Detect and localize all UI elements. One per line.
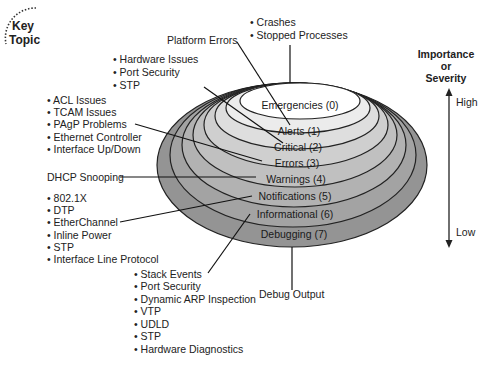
key-topic-line2: Topic: [9, 33, 40, 47]
callout-informational-item: Dynamic ARP Inspection: [141, 293, 257, 305]
svg-text:• TCAM Issues: • TCAM Issues: [47, 106, 116, 118]
callout-critical-item: STP: [120, 79, 140, 91]
svg-text:• STP: • STP: [113, 79, 140, 91]
callout-informational-item: Hardware Diagnostics: [141, 343, 244, 355]
callout-errors-item: ACL Issues: [53, 94, 106, 106]
callout-errors-item: TCAM Issues: [53, 106, 116, 118]
callout-critical: • Hardware Issues • Port Security • STP: [113, 53, 198, 91]
callout-errors-item: Ethernet Controller: [54, 131, 143, 143]
callout-errors-item: Interface Up/Down: [54, 143, 141, 155]
key-topic-line1: Key: [12, 19, 34, 33]
svg-text:• DTP: • DTP: [47, 204, 75, 216]
syslog-severity-diagram: Key Topic Emergencies (0) Alerts (1) Cri…: [0, 0, 485, 365]
level-0-label: Emergencies (0): [261, 99, 338, 111]
level-4-label: Warnings (4): [266, 173, 326, 185]
svg-text:• Interface Line Protocol: • Interface Line Protocol: [47, 253, 159, 265]
callout-informational-item: STP: [141, 330, 161, 342]
callout-critical-item: Port Security: [120, 66, 181, 78]
svg-text:• Stack Events: • Stack Events: [134, 268, 202, 280]
callout-emergencies-item: Stopped Processes: [257, 29, 348, 41]
callout-informational-item: Stack Events: [141, 268, 202, 280]
key-topic-badge: Key Topic: [5, 8, 40, 47]
callout-notifications-item: EtherChannel: [54, 216, 118, 228]
severity-axis: Importance or Severity High Low: [418, 48, 478, 248]
level-2-label: Critical (2): [274, 141, 322, 153]
callout-informational-item: VTP: [141, 305, 161, 317]
svg-text:• Dynamic ARP Inspection: • Dynamic ARP Inspection: [134, 293, 256, 305]
level-7-label: Debugging (7): [261, 228, 328, 240]
axis-title-line1: Importance: [418, 48, 475, 60]
callout-warnings: DHCP Snooping: [47, 171, 124, 183]
svg-text:• PAgP Problems: • PAgP Problems: [47, 118, 127, 130]
callout-notifications-item: DTP: [54, 204, 75, 216]
svg-text:• Ethernet Controller: • Ethernet Controller: [47, 131, 142, 143]
svg-text:• Inline Power: • Inline Power: [47, 229, 112, 241]
callout-alerts: Platform Errors: [167, 34, 238, 46]
svg-text:• VTP: • VTP: [134, 305, 161, 317]
svg-text:• UDLD: • UDLD: [134, 318, 170, 330]
axis-high-label: High: [456, 96, 478, 108]
arrow-up-icon: [446, 88, 453, 96]
svg-text:• Port Security: • Port Security: [113, 66, 180, 78]
callout-informational-item: Port Security: [141, 280, 202, 292]
callout-errors-item: PAgP Problems: [54, 118, 127, 130]
level-6-label: Informational (6): [257, 208, 333, 220]
svg-text:• STP: • STP: [134, 330, 161, 342]
callout-notifications-item: STP: [54, 241, 74, 253]
svg-text:• EtherChannel: • EtherChannel: [47, 216, 118, 228]
callout-notifications-item: 802.1X: [54, 192, 87, 204]
level-1-label: Alerts (1): [278, 125, 321, 137]
bullet: •: [250, 16, 257, 28]
callout-errors: • ACL Issues • TCAM Issues • PAgP Proble…: [47, 94, 142, 155]
callout-informational: • Stack Events • Port Security • Dynamic…: [134, 268, 256, 355]
callout-critical-item: Hardware Issues: [120, 53, 199, 65]
svg-text:• Stopped Processes: • Stopped Processes: [250, 29, 348, 41]
callout-debugging: Debug Output: [259, 288, 324, 300]
level-5-label: Notifications (5): [259, 190, 332, 202]
level-3-label: Errors (3): [275, 157, 319, 169]
callout-notifications-item: Inline Power: [54, 229, 112, 241]
callout-emergencies: • Crashes • Stopped Processes: [250, 16, 348, 41]
axis-title-line2: or: [441, 60, 452, 72]
axis-low-label: Low: [456, 226, 476, 238]
svg-text:• Hardware Diagnostics: • Hardware Diagnostics: [134, 343, 243, 355]
callout-notifications-item: Interface Line Protocol: [54, 253, 159, 265]
svg-text:• Interface Up/Down: • Interface Up/Down: [47, 143, 141, 155]
svg-text:• 802.1X: • 802.1X: [47, 192, 87, 204]
arrow-down-icon: [446, 240, 453, 248]
callout-emergencies-item: Crashes: [257, 16, 296, 28]
svg-text:• ACL Issues: • ACL Issues: [47, 94, 106, 106]
svg-text:• Hardware Issues: • Hardware Issues: [113, 53, 198, 65]
svg-text:• Port Security: • Port Security: [134, 280, 201, 292]
callout-informational-item: UDLD: [141, 318, 170, 330]
axis-title-line3: Severity: [426, 72, 467, 84]
callout-notifications: • 802.1X • DTP • EtherChannel • Inline P…: [47, 192, 159, 265]
svg-text:• Crashes: • Crashes: [250, 16, 296, 28]
svg-text:• STP: • STP: [47, 241, 74, 253]
